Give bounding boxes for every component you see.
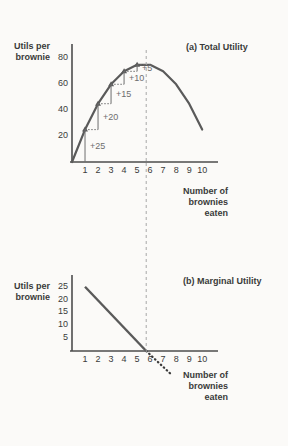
y-tick-label: 10 (50, 319, 68, 329)
x-tick-label: 3 (104, 354, 118, 364)
x-axis-title: Number of brownies eaten (166, 370, 228, 403)
panel-title: (b) Marginal Utility (183, 276, 262, 286)
step-increment-label: +25 (90, 141, 105, 151)
step-increment-label: +5 (142, 63, 152, 73)
y-tick-label: 25 (50, 281, 68, 291)
x-tick-label: 8 (169, 165, 183, 175)
x-tick-label: 4 (117, 165, 131, 175)
x-tick-label: 7 (156, 165, 170, 175)
x-tick-label: 10 (195, 354, 209, 364)
step-increment-label: +20 (103, 112, 118, 122)
x-tick-label: 10 (195, 165, 209, 175)
y-tick-label: 20 (50, 294, 68, 304)
x-axis-title: Number of brownies eaten (166, 186, 228, 219)
x-tick-label: 6 (143, 354, 157, 364)
x-tick-label: 5 (130, 354, 144, 364)
x-tick-label: 8 (169, 354, 183, 364)
y-tick-label: 20 (50, 130, 68, 140)
y-tick-label: 15 (50, 306, 68, 316)
y-tick-label: 80 (50, 52, 68, 62)
marginal-utility-line (85, 287, 146, 351)
x-tick-label: 6 (143, 165, 157, 175)
step-increment-label: +15 (116, 89, 131, 99)
y-tick-label: 5 (50, 332, 68, 342)
x-tick-label: 7 (156, 354, 170, 364)
panel-title: (a) Total Utility (186, 42, 248, 52)
x-tick-label: 9 (182, 165, 196, 175)
y-axis-title: Utils per brownie (8, 41, 50, 62)
x-tick-label: 2 (91, 165, 105, 175)
x-tick-label: 5 (130, 165, 144, 175)
x-tick-label: 4 (117, 354, 131, 364)
utility-figure: 2040608012345678910Utils per brownieNumb… (0, 0, 288, 446)
step-increment-label: +10 (129, 73, 144, 83)
x-tick-label: 1 (78, 354, 92, 364)
y-axis-title: Utils per brownie (8, 281, 50, 302)
x-tick-label: 3 (104, 165, 118, 175)
x-tick-label: 2 (91, 354, 105, 364)
y-tick-label: 60 (50, 78, 68, 88)
x-tick-label: 9 (182, 354, 196, 364)
y-tick-label: 40 (50, 104, 68, 114)
x-tick-label: 1 (78, 165, 92, 175)
